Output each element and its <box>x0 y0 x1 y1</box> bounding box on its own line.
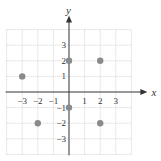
data-point <box>66 58 72 64</box>
x-axis-arrow-icon <box>140 89 147 95</box>
data-point <box>35 120 41 126</box>
y-axis-title: y <box>65 4 71 16</box>
y-tick-label: 2 <box>62 56 67 66</box>
y-tick-label: −2 <box>56 118 66 128</box>
data-point <box>66 104 72 110</box>
y-tick-label: 3 <box>62 40 67 50</box>
y-tick-label: −1 <box>56 103 66 113</box>
data-point <box>97 58 103 64</box>
x-tick-label: −3 <box>17 96 27 106</box>
y-tick-label: −3 <box>56 134 66 144</box>
x-axis-title: x <box>150 86 156 98</box>
x-tick-label: 1 <box>82 96 87 106</box>
y-axis-arrow-icon <box>66 16 72 23</box>
x-tick-label: 2 <box>98 96 103 106</box>
axes: x y <box>6 4 157 156</box>
x-tick-label: −2 <box>33 96 43 106</box>
y-tick-label: 1 <box>62 71 67 81</box>
data-point <box>97 120 103 126</box>
x-tick-label: 3 <box>114 96 119 106</box>
coordinate-plane: x y −3−2−1123321−1−2−3 <box>0 0 161 161</box>
data-point <box>19 73 25 79</box>
